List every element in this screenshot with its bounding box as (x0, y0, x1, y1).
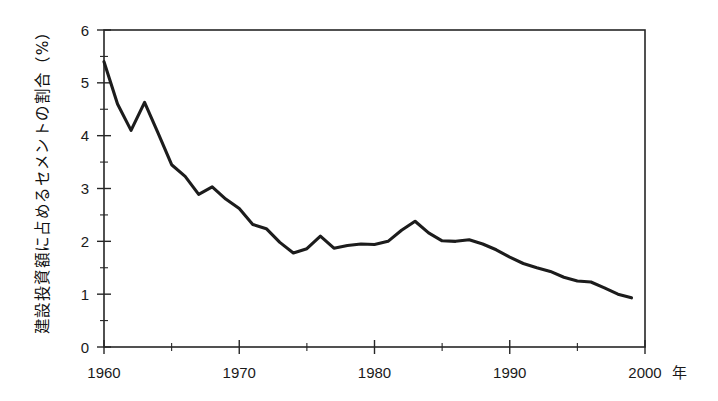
x-tick-label: 1960 (87, 364, 120, 381)
x-axis-unit-label: 年 (672, 364, 687, 382)
chart-figure: 0123456 19601970198019902000 建設投資額に占めるセメ… (0, 0, 718, 401)
y-tick-label: 0 (81, 339, 89, 356)
y-tick-label: 2 (81, 233, 89, 250)
y-tick-label: 1 (81, 286, 89, 303)
chart-background (0, 0, 718, 401)
x-tick-label: 1980 (358, 364, 391, 381)
y-axis-title: 建設投資額に占めるセメントの割合（%） (34, 24, 52, 334)
line-chart: 0123456 19601970198019902000 建設投資額に占めるセメ… (0, 0, 718, 401)
x-tick-label: 1990 (493, 364, 526, 381)
y-tick-label: 4 (81, 127, 89, 144)
x-tick-label: 2000 (628, 364, 661, 381)
y-tick-label: 3 (81, 180, 89, 197)
y-tick-label: 5 (81, 74, 89, 91)
y-tick-label: 6 (81, 22, 89, 39)
x-tick-label: 1970 (223, 364, 256, 381)
